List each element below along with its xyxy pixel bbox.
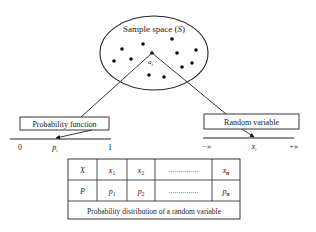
sample-point — [170, 37, 174, 41]
sample-point — [180, 65, 184, 69]
random-variable-label: Random variable — [224, 118, 279, 127]
sample-point — [190, 61, 194, 65]
sample-space: Sample space (S) ai — [100, 16, 208, 90]
sample-point — [162, 75, 166, 79]
probability-function-label: Probability function — [32, 120, 96, 129]
highlight-point-label: ai — [148, 58, 154, 67]
sample-point — [129, 57, 133, 61]
sample-point — [120, 47, 124, 51]
sample-point — [141, 42, 145, 46]
sample-point — [147, 73, 151, 77]
table-cell: x1 — [108, 166, 116, 176]
table-caption: Probability distribution of a random var… — [87, 207, 222, 216]
table-row-head-p: P — [79, 187, 85, 196]
sample-point — [175, 51, 179, 55]
distribution-table: X x1 x2 …………… xn P p1 p2 …………… pn Probab… — [68, 159, 240, 219]
probability-function-box: Probability function — [20, 117, 109, 130]
sample-points — [112, 37, 198, 79]
table-cell-ellipsis: …………… — [169, 188, 199, 194]
connector-to-probability-function — [81, 53, 152, 117]
table-cell: p2 — [137, 187, 145, 197]
table-cell: p1 — [108, 187, 116, 197]
probability-diagram: Sample space (S) ai Probability function… — [0, 0, 316, 232]
probability-marker-label: pi — [51, 143, 58, 153]
table-cell-ellipsis: …………… — [169, 167, 199, 173]
connector-to-random-variable — [152, 53, 226, 114]
table-cell: xn — [222, 166, 230, 176]
sample-point — [194, 48, 198, 52]
probability-axis-end: 1 — [108, 143, 112, 152]
random-variable-axis-start: −∞ — [203, 143, 212, 151]
table-row-head-x: X — [79, 166, 86, 175]
table-cell: x2 — [137, 166, 145, 176]
sample-space-title: Sample space (S) — [123, 24, 185, 34]
probability-axis-start: 0 — [18, 143, 22, 152]
random-variable-marker-label: xi — [251, 142, 258, 152]
sample-point — [112, 59, 116, 63]
random-variable-axis-end: +∞ — [290, 143, 299, 151]
random-variable-arrow — [242, 129, 254, 137]
random-variable-box: Random variable — [204, 114, 299, 129]
table-cell: pn — [221, 187, 229, 197]
probability-arrow — [56, 130, 92, 138]
